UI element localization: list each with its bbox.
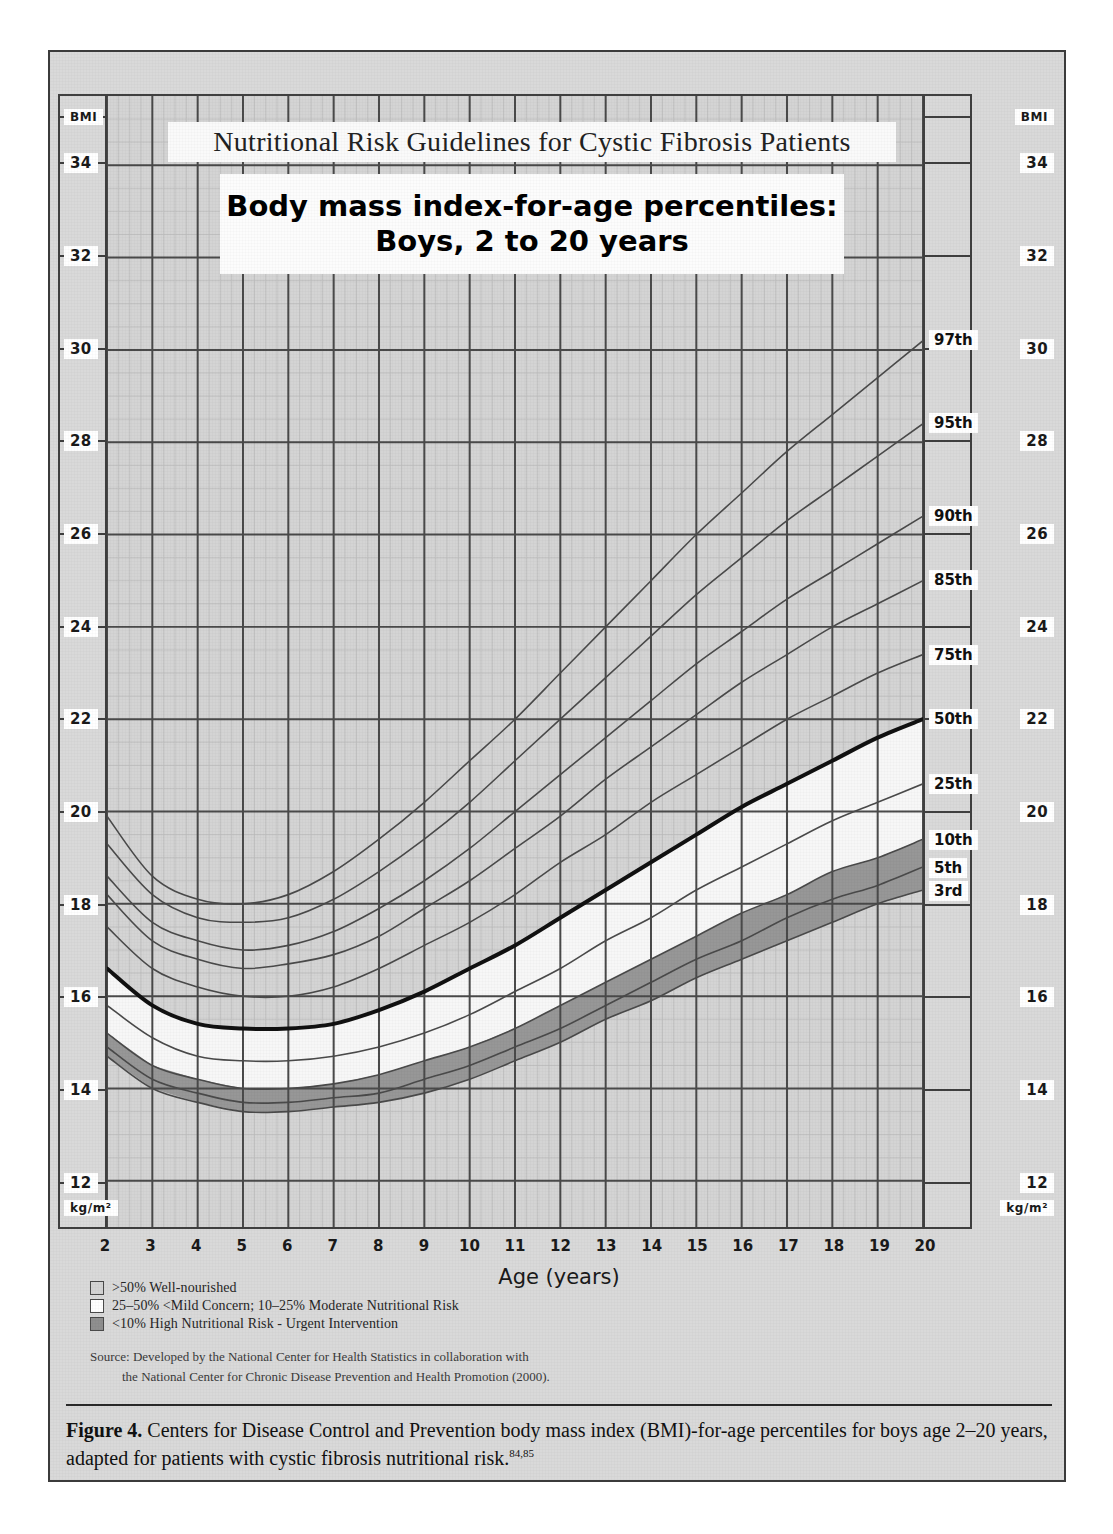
legend-item: 25–50% <Mild Concern; 10–25% Moderate Nu… [90,1298,459,1314]
y-tick-right-16 [925,996,971,998]
y-axis-label-right-bmi: BMI [1015,109,1054,125]
x-axis-label-6: 6 [282,1237,292,1255]
percentile-label-50th: 50th [929,709,978,729]
percentile-label-95th: 95th [929,413,978,433]
x-axis-label-9: 9 [419,1237,429,1255]
percentile-label-3rd: 3rd [929,881,968,901]
legend: >50% Well-nourished25–50% <Mild Concern;… [90,1280,459,1334]
y-axis-label-right-22: 22 [1020,709,1054,729]
percentile-label-90th: 90th [929,506,978,526]
y-axis-label-left-kgm: kg/m² [64,1200,118,1216]
y-axis-label-left-14: 14 [64,1080,98,1100]
caption-divider [66,1404,1052,1406]
y-axis-label-right-14: 14 [1020,1080,1054,1100]
caption-text: Centers for Disease Control and Preventi… [66,1419,1048,1469]
y-axis-label-right-30: 30 [1020,339,1054,359]
x-axis-label-10: 10 [459,1237,480,1255]
x-axis-label-11: 11 [505,1237,526,1255]
y-axis-label-left-32: 32 [64,246,98,266]
x-axis-label-12: 12 [550,1237,571,1255]
x-axis-label-17: 17 [778,1237,799,1255]
percentile-label-97th: 97th [929,330,978,350]
y-axis-label-left-18: 18 [64,895,98,915]
y-axis-label-left-30: 30 [64,339,98,359]
y-axis-label-right-20: 20 [1020,802,1054,822]
y-axis-label-left-28: 28 [64,431,98,451]
legend-item: >50% Well-nourished [90,1280,459,1296]
y-tick-right-12 [925,1182,971,1184]
x-axis-label-20: 20 [915,1237,936,1255]
legend-swatch-white [90,1299,104,1313]
x-axis-label-13: 13 [596,1237,617,1255]
y-tick-right-18 [925,904,971,906]
x-axis-label-15: 15 [687,1237,708,1255]
source-note: Source: Developed by the National Center… [90,1347,790,1386]
figure-page: 1212141416161818202022222424262628283030… [0,0,1113,1534]
y-axis-label-left-26: 26 [64,524,98,544]
caption-label: Figure 4. [66,1419,142,1441]
figure-caption: Figure 4. Centers for Disease Control an… [66,1416,1052,1473]
y-axis-label-left-22: 22 [64,709,98,729]
legend-label: <10% High Nutritional Risk - Urgent Inte… [112,1316,398,1332]
x-axis-label-16: 16 [732,1237,753,1255]
legend-swatch-grey [90,1281,104,1295]
y-axis-label-left-12: 12 [64,1173,98,1193]
y-tick-right-32 [925,255,971,257]
percentile-label-85th: 85th [929,570,978,590]
y-axis-label-left-16: 16 [64,987,98,1007]
y-axis-label-left-24: 24 [64,617,98,637]
percentile-label-10th: 10th [929,830,978,850]
x-axis-label-14: 14 [641,1237,662,1255]
x-axis-label-7: 7 [328,1237,338,1255]
y-tick-right-26 [925,533,971,535]
percentile-label-75th: 75th [929,645,978,665]
percentile-label-25th: 25th [929,774,978,794]
y-axis-label-left-34: 34 [64,153,98,173]
x-axis-label-2: 2 [100,1237,110,1255]
y-tick-right-bmi [925,116,971,118]
y-tick-right-34 [925,162,971,164]
main-title-line-1: Body mass index-for-age percentiles: [226,189,837,224]
y-axis-label-right-24: 24 [1020,617,1054,637]
figure-frame: 1212141416161818202022222424262628283030… [48,50,1066,1482]
growth-chart: 1212141416161818202022222424262628283030… [50,52,1068,1392]
main-title-line-2: Boys, 2 to 20 years [375,224,689,259]
source-line-2: the National Center for Chronic Disease … [90,1367,790,1387]
legend-label: >50% Well-nourished [112,1280,237,1296]
y-axis-label-right-32: 32 [1020,246,1054,266]
legend-swatch-dark-grey [90,1317,104,1331]
x-axis-label-3: 3 [145,1237,155,1255]
legend-label: 25–50% <Mild Concern; 10–25% Moderate Nu… [112,1298,459,1314]
legend-item: <10% High Nutritional Risk - Urgent Inte… [90,1316,459,1332]
y-tick-right-28 [925,440,971,442]
main-title-box: Body mass index-for-age percentiles: Boy… [220,174,844,274]
banner-title-box: Nutritional Risk Guidelines for Cystic F… [168,122,896,162]
y-axis-label-right-26: 26 [1020,524,1054,544]
x-axis-label-19: 19 [869,1237,890,1255]
y-axis-label-right-kgm: kg/m² [1000,1200,1054,1216]
y-axis-label-right-28: 28 [1020,431,1054,451]
y-tick-right-20 [925,811,971,813]
y-axis-label-right-16: 16 [1020,987,1054,1007]
y-axis-label-left-bmi: BMI [64,109,103,125]
x-axis-label-8: 8 [373,1237,383,1255]
x-axis-label-4: 4 [191,1237,201,1255]
y-tick-right-24 [925,626,971,628]
x-axis-label-5: 5 [236,1237,246,1255]
banner-title-text: Nutritional Risk Guidelines for Cystic F… [213,126,850,158]
y-tick-right-14 [925,1089,971,1091]
y-axis-label-left-20: 20 [64,802,98,822]
y-axis-label-right-12: 12 [1020,1173,1054,1193]
y-axis-label-right-18: 18 [1020,895,1054,915]
source-line-1: Source: Developed by the National Center… [90,1349,529,1364]
y-axis-label-right-34: 34 [1020,153,1054,173]
percentile-label-5th: 5th [929,858,967,878]
x-axis-label-18: 18 [823,1237,844,1255]
caption-references: 84,85 [509,1448,534,1460]
